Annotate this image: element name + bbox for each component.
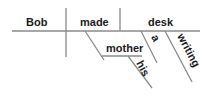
modifier-his-word: his bbox=[134, 58, 152, 78]
modifier-a-word: a bbox=[149, 32, 163, 44]
indirect-object-word: mother bbox=[106, 42, 144, 54]
indirect-object-slant bbox=[85, 31, 104, 60]
sentence-diagram: Bob made desk mother his a writing bbox=[0, 0, 212, 97]
modifier-writing-word: writing bbox=[175, 30, 203, 68]
verb-word: made bbox=[80, 16, 109, 28]
direct-object-word: desk bbox=[148, 16, 174, 28]
subject-word: Bob bbox=[26, 16, 48, 28]
